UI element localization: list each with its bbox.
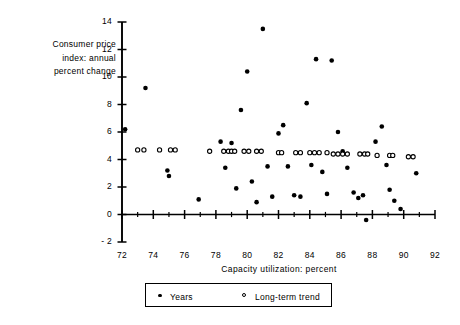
x-tick-label: 76 xyxy=(174,250,196,260)
legend-marker-long-term-trend-icon xyxy=(242,293,246,297)
data-point-filled xyxy=(387,187,392,192)
y-tick-label: 10 xyxy=(90,71,112,81)
data-point-open xyxy=(336,152,340,156)
series-years xyxy=(123,27,419,223)
data-point-open xyxy=(298,151,302,155)
data-point-filled xyxy=(250,179,255,184)
y-tick-label: 8 xyxy=(90,99,112,109)
data-point-open xyxy=(358,152,362,156)
scatter-chart-figure: Consumer price index: annual percent cha… xyxy=(0,0,460,325)
data-point-filled xyxy=(123,127,128,132)
data-point-open xyxy=(208,149,212,153)
data-point-open xyxy=(254,149,258,153)
plot-area xyxy=(0,0,460,325)
legend-marker-years-icon xyxy=(158,294,162,298)
data-point-filled xyxy=(245,69,250,74)
data-point-filled xyxy=(298,194,303,199)
data-point-open xyxy=(168,148,172,152)
data-point-open xyxy=(294,151,298,155)
data-point-filled xyxy=(276,131,281,136)
data-point-filled xyxy=(223,165,228,170)
data-point-open xyxy=(366,152,370,156)
data-point-filled xyxy=(309,163,314,168)
x-tick-label: 82 xyxy=(268,250,290,260)
data-points xyxy=(123,27,419,223)
data-point-filled xyxy=(229,141,234,146)
data-point-open xyxy=(247,149,251,153)
y-tick-label: - 2 xyxy=(90,236,112,246)
data-point-filled xyxy=(304,101,309,106)
data-point-open xyxy=(259,149,263,153)
data-point-filled xyxy=(314,57,319,62)
data-point-open xyxy=(312,151,316,155)
data-point-open xyxy=(375,153,379,157)
y-tick-label: 6 xyxy=(90,126,112,136)
data-point-filled xyxy=(239,108,244,113)
data-point-filled xyxy=(414,171,419,176)
data-point-filled xyxy=(218,139,223,144)
data-point-open xyxy=(242,149,246,153)
data-point-open xyxy=(406,155,410,159)
x-tick-label: 92 xyxy=(424,250,446,260)
data-point-filled xyxy=(379,124,384,129)
data-point-filled xyxy=(265,164,270,169)
legend-label-long-term-trend: Long-term trend xyxy=(255,292,320,302)
data-point-filled xyxy=(325,192,330,197)
data-point-open xyxy=(142,148,146,152)
data-point-open xyxy=(233,149,237,153)
data-point-open xyxy=(136,148,140,152)
y-tick-label: 2 xyxy=(90,181,112,191)
data-point-open xyxy=(308,151,312,155)
x-tick-label: 78 xyxy=(205,250,227,260)
data-point-filled xyxy=(398,207,403,212)
data-point-open xyxy=(391,153,395,157)
data-point-filled xyxy=(196,197,201,202)
data-point-open xyxy=(317,151,321,155)
data-point-filled xyxy=(336,130,341,135)
data-point-open xyxy=(411,155,415,159)
data-point-open xyxy=(325,151,329,155)
data-point-open xyxy=(157,148,161,152)
x-tick-label: 74 xyxy=(142,250,164,260)
data-point-filled xyxy=(364,218,369,223)
data-point-filled xyxy=(254,200,259,205)
data-point-open xyxy=(280,151,284,155)
series-long-term-trend xyxy=(136,148,416,159)
x-tick-label: 84 xyxy=(299,250,321,260)
data-point-open xyxy=(222,149,226,153)
data-point-filled xyxy=(356,196,361,201)
x-tick-label: 88 xyxy=(361,250,383,260)
x-tick-label: 90 xyxy=(393,250,415,260)
data-point-open xyxy=(173,148,177,152)
data-point-filled xyxy=(286,164,291,169)
axes xyxy=(118,22,436,242)
data-point-filled xyxy=(281,123,286,128)
data-point-filled xyxy=(270,194,275,199)
data-point-open xyxy=(345,152,349,156)
data-point-filled xyxy=(320,170,325,175)
data-point-filled xyxy=(261,27,266,32)
data-point-filled xyxy=(292,193,297,198)
chart-legend: Years Long-term trend xyxy=(145,283,332,307)
y-tick-label: 14 xyxy=(90,16,112,26)
data-point-filled xyxy=(165,168,170,173)
data-point-filled xyxy=(384,163,389,168)
data-point-filled xyxy=(373,139,378,144)
x-tick-label: 80 xyxy=(236,250,258,260)
data-point-filled xyxy=(143,86,148,91)
y-tick-label: 0 xyxy=(90,209,112,219)
data-point-filled xyxy=(351,190,356,195)
y-tick-label: 12 xyxy=(90,44,112,54)
x-tick-label: 72 xyxy=(111,250,133,260)
data-point-filled xyxy=(234,186,239,191)
x-tick-label: 86 xyxy=(330,250,352,260)
y-tick-label: 4 xyxy=(90,154,112,164)
data-point-filled xyxy=(329,58,334,63)
data-point-open xyxy=(331,152,335,156)
data-point-filled xyxy=(392,198,397,203)
data-point-open xyxy=(341,152,345,156)
legend-label-years: Years xyxy=(170,292,193,302)
data-point-filled xyxy=(345,165,350,170)
data-point-filled xyxy=(167,174,172,179)
data-point-filled xyxy=(361,193,366,198)
